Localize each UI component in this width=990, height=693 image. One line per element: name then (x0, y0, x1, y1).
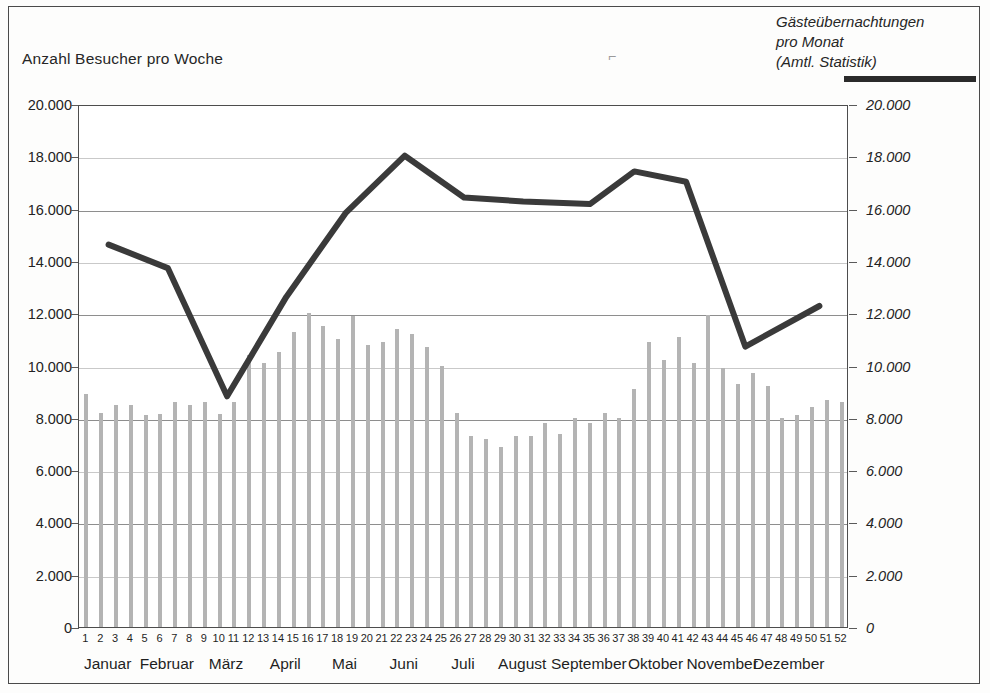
week-tick-label: 23 (405, 632, 417, 644)
week-tick-label: 18 (331, 632, 343, 644)
week-tick-label: 43 (701, 632, 713, 644)
week-tick-label: 28 (479, 632, 491, 644)
week-tick-label: 11 (228, 632, 239, 644)
y-axis-right-tick (849, 419, 857, 420)
y-axis-right-tick-label: 16.000 (866, 202, 910, 218)
y-axis-left-tick-label: 20.000 (0, 97, 72, 113)
y-axis-right-tick-label: 6.000 (866, 463, 902, 479)
y-axis-left-tick-label: 6.000 (0, 463, 72, 479)
month-tick-label: September (551, 655, 627, 673)
week-tick-label: 21 (375, 632, 387, 644)
week-tick-label: 46 (746, 632, 758, 644)
y-axis-right-tick (849, 523, 857, 524)
month-tick-label: Juni (390, 655, 418, 673)
y-axis-left-tick-label: 16.000 (0, 202, 72, 218)
week-tick-label: 1 (82, 632, 88, 644)
line-series-legend-swatch (844, 76, 976, 82)
week-tick-label: 35 (583, 632, 595, 644)
week-tick-label: 5 (142, 632, 148, 644)
week-tick-label: 34 (568, 632, 580, 644)
y-axis-right-tick (849, 367, 857, 368)
y-axis-right-tick (849, 471, 857, 472)
week-tick-label: 26 (449, 632, 461, 644)
month-tick-label: März (209, 655, 243, 673)
week-tick-label: 6 (156, 632, 162, 644)
week-tick-label: 40 (657, 632, 669, 644)
y-axis-right-tick-label: 12.000 (866, 306, 910, 322)
plot-area (78, 105, 848, 628)
y-axis-left-tick-label: 18.000 (0, 149, 72, 165)
y-axis-left-tick-label: 8.000 (0, 411, 72, 427)
week-tick-label: 2 (97, 632, 103, 644)
week-tick-label: 33 (553, 632, 565, 644)
right-axis-title-line2: pro Monat (776, 32, 976, 52)
month-tick-label: April (270, 655, 301, 673)
week-tick-label: 10 (213, 632, 225, 644)
week-tick-label: 36 (598, 632, 610, 644)
week-tick-label: 25 (435, 632, 447, 644)
month-tick-label: Februar (140, 655, 194, 673)
month-tick-label: Dezember (753, 655, 825, 673)
week-tick-label: 9 (201, 632, 207, 644)
week-tick-label: 39 (642, 632, 654, 644)
y-axis-right-tick (849, 314, 857, 315)
y-axis-left-tick-label: 4.000 (0, 515, 72, 531)
week-tick-label: 30 (509, 632, 521, 644)
y-axis-right: 20.00018.00016.00014.00012.00010.0008.00… (866, 96, 976, 636)
week-tick-label: 8 (186, 632, 192, 644)
week-tick-label: 12 (242, 632, 254, 644)
week-tick-label: 31 (524, 632, 536, 644)
week-tick-label: 38 (627, 632, 639, 644)
y-axis-right-tick (849, 628, 857, 629)
week-tick-label: 37 (612, 632, 624, 644)
y-axis-left-tick (71, 628, 79, 629)
x-axis-week-labels: 1234567891011121314151617181920212223242… (78, 632, 848, 650)
week-tick-label: 19 (346, 632, 358, 644)
right-axis-title-line1: Gästeübernachtungen (776, 12, 976, 32)
week-tick-label: 50 (805, 632, 817, 644)
week-tick-label: 13 (257, 632, 269, 644)
y-axis-right-tick-label: 10.000 (866, 359, 910, 375)
y-axis-right-tick (849, 210, 857, 211)
y-axis-left-tick-label: 0 (0, 620, 72, 636)
week-tick-label: 29 (494, 632, 506, 644)
week-tick-label: 3 (112, 632, 118, 644)
week-tick-label: 17 (316, 632, 328, 644)
week-tick-label: 7 (171, 632, 177, 644)
week-tick-label: 41 (672, 632, 684, 644)
y-axis-right-tick (849, 576, 857, 577)
y-axis-right-tick (849, 157, 857, 158)
month-tick-label: Mai (332, 655, 357, 673)
week-tick-label: 4 (127, 632, 133, 644)
right-axis-title: Gästeübernachtungen pro Monat (Amtl. Sta… (776, 12, 976, 72)
line-series-svg (79, 106, 849, 629)
y-axis-right-tick (849, 262, 857, 263)
week-tick-label: 47 (760, 632, 772, 644)
y-axis-left-tick-label: 14.000 (0, 254, 72, 270)
week-tick-label: 27 (464, 632, 476, 644)
month-tick-label: Juli (451, 655, 474, 673)
y-axis-right-tick-label: 4.000 (866, 515, 902, 531)
week-tick-label: 15 (287, 632, 299, 644)
month-tick-label: August (498, 655, 546, 673)
y-axis-right-tick-label: 2.000 (866, 568, 902, 584)
y-axis-left-tick-label: 2.000 (0, 568, 72, 584)
week-tick-label: 52 (834, 632, 846, 644)
week-tick-label: 42 (686, 632, 698, 644)
y-axis-right-tick-label: 8.000 (866, 411, 902, 427)
week-tick-label: 44 (716, 632, 728, 644)
y-axis-right-tick-label: 18.000 (866, 149, 910, 165)
left-axis-title: Anzahl Besucher pro Woche (22, 50, 223, 68)
week-tick-label: 14 (272, 632, 284, 644)
week-tick-label: 24 (420, 632, 432, 644)
y-axis-right-tick-label: 0 (866, 620, 874, 636)
stray-pen-mark: ⌐ (608, 48, 618, 60)
right-axis-title-line3: (Amtl. Statistik) (776, 52, 976, 72)
week-tick-label: 48 (775, 632, 787, 644)
y-axis-right-ticks (849, 105, 859, 628)
y-axis-right-tick-label: 14.000 (866, 254, 910, 270)
y-axis-left: 20.00018.00016.00014.00012.00010.0008.00… (0, 96, 72, 636)
gaesteuebernachtungen-line (109, 156, 820, 397)
chart-page: Anzahl Besucher pro Woche Gästeübernacht… (0, 0, 990, 693)
y-axis-left-tick-label: 10.000 (0, 359, 72, 375)
